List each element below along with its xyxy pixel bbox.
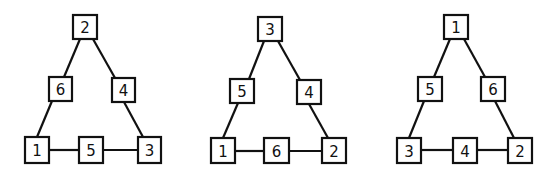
node-label: 5 — [237, 83, 247, 101]
edge — [93, 39, 115, 78]
node-left-mid: 6 — [49, 77, 72, 101]
node-label: 3 — [145, 142, 155, 160]
node-top: 1 — [444, 15, 468, 39]
node-bottom-left: 1 — [25, 137, 49, 163]
edge — [464, 39, 485, 77]
edge — [249, 41, 264, 79]
edge — [278, 41, 300, 80]
node-label: 2 — [80, 19, 90, 37]
edge — [64, 39, 80, 77]
edge — [434, 39, 450, 77]
edge — [409, 101, 424, 138]
node-label: 3 — [265, 21, 275, 39]
node-label: 2 — [515, 143, 525, 161]
node-label: 4 — [119, 82, 129, 100]
triangle-2: 3 5 4 1 6 2 — [211, 17, 346, 163]
node-right-mid: 4 — [112, 78, 135, 102]
node-label: 3 — [404, 143, 414, 161]
node-bottom-mid: 6 — [264, 138, 289, 163]
node-right-mid: 6 — [481, 77, 505, 101]
node-bottom-right: 2 — [508, 138, 532, 163]
node-label: 1 — [451, 19, 461, 37]
node-label: 5 — [425, 81, 435, 99]
node-label: 5 — [86, 142, 96, 160]
node-label: 4 — [460, 143, 470, 161]
node-bottom-mid: 4 — [453, 138, 477, 163]
node-left-mid: 5 — [418, 77, 442, 101]
node-label: 6 — [272, 143, 282, 161]
edge — [309, 104, 328, 138]
edge — [124, 102, 143, 137]
node-label: 1 — [32, 142, 42, 160]
node-label: 2 — [329, 143, 339, 161]
node-top: 2 — [73, 15, 97, 39]
edge — [37, 101, 52, 137]
node-label: 4 — [304, 84, 314, 102]
node-label: 6 — [488, 81, 498, 99]
node-bottom-mid: 5 — [79, 137, 103, 163]
node-bottom-left: 1 — [211, 138, 235, 163]
node-bottom-right: 2 — [322, 138, 346, 163]
node-right-mid: 4 — [297, 80, 321, 104]
edge — [495, 101, 514, 138]
node-label: 6 — [56, 81, 66, 99]
node-top: 3 — [258, 17, 282, 41]
edge — [223, 103, 238, 138]
node-label: 1 — [218, 143, 228, 161]
triangle-3: 1 5 6 3 4 2 — [397, 15, 532, 163]
triangle-1: 2 6 4 1 5 3 — [25, 15, 161, 163]
triangle-diagrams: 2 6 4 1 5 3 3 — [0, 0, 556, 178]
node-bottom-left: 3 — [397, 138, 421, 163]
node-left-mid: 5 — [230, 79, 254, 103]
node-bottom-right: 3 — [138, 137, 161, 163]
